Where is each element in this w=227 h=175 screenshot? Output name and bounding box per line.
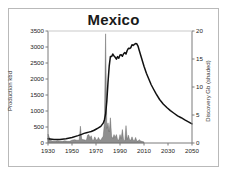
axes-layer (46, 31, 195, 146)
y-axis-left-tick-label: 2000 (30, 75, 44, 82)
x-axis-tick-label: 1930 (41, 147, 55, 154)
plot-area: 0500100015002000250030003500051015201930… (0, 0, 227, 175)
y-axis-left-tick-label: 3500 (30, 27, 44, 34)
x-axis-tick-label: 1950 (65, 147, 79, 154)
y-axis-left-tick-label: 3000 (30, 43, 44, 50)
y-axis-left-tick-label: 2500 (30, 59, 44, 66)
y-axis-left-tick-label: 0 (41, 139, 45, 146)
y-axis-right-tick-label: 15 (196, 55, 203, 62)
y-axis-right-tick-label: 10 (196, 83, 203, 90)
x-axis-tick-label: 2010 (137, 147, 151, 154)
axis-frame (48, 31, 192, 143)
discovery-area-series (48, 34, 144, 143)
y-axis-left-tick-label: 500 (34, 123, 45, 130)
x-axis-tick-label: 2050 (185, 147, 199, 154)
x-axis-tick-label: 2030 (161, 147, 175, 154)
x-axis-tick-label: 1970 (89, 147, 103, 154)
y-axis-right-tick-label: 0 (196, 139, 200, 146)
chart-figure: Mexico Production kbd Discovery Gb (shad… (0, 0, 227, 175)
series-layer (48, 34, 192, 143)
x-axis-tick-label: 1990 (113, 147, 127, 154)
y-axis-right-tick-label: 5 (196, 111, 200, 118)
tick-labels-layer: 0500100015002000250030003500051015201930… (30, 27, 203, 153)
y-axis-left-tick-label: 1500 (30, 91, 44, 98)
y-axis-right-tick-label: 20 (196, 27, 203, 34)
production-line-series (48, 43, 192, 139)
y-axis-left-tick-label: 1000 (30, 107, 44, 114)
